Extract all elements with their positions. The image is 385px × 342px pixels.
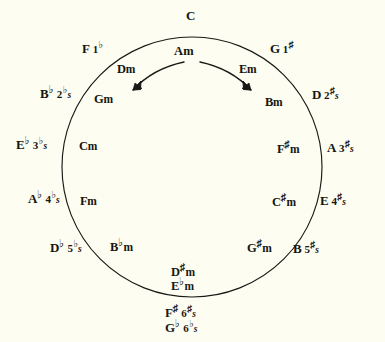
major-key-a-signature: 3♯s — [339, 142, 354, 154]
major-key-eb-accidental: ♭ — [24, 134, 29, 146]
major-key-f: F1♭ — [82, 42, 103, 56]
major-key-eb: E♭3♭s — [16, 138, 47, 152]
major-key-f-signature: 1♭ — [93, 43, 104, 55]
minor-key-dm-suffix: m — [126, 63, 136, 75]
major-key-c: C — [186, 9, 196, 22]
major-key-e-signature: 4♯s — [331, 195, 346, 207]
major-key-b: B5♯s — [293, 242, 319, 256]
minor-key-gsm-suffix: m — [262, 242, 272, 254]
minor-key-bm-suffix: m — [273, 96, 283, 108]
minor-key-fm-suffix: m — [87, 195, 97, 207]
minor-key-enharmonic-bottom: D♯m E♭m — [171, 265, 195, 294]
minor-key-gsm: G♯m — [247, 242, 272, 255]
minor-key-em-suffix: m — [247, 63, 257, 75]
major-key-gb: G♭6♭s — [165, 321, 198, 336]
minor-key-gm-suffix: m — [103, 93, 113, 105]
major-key-eb-signature: 3♭s — [33, 139, 48, 151]
major-key-enharmonic-bottom: F♯6♯s G♭6♭s — [165, 306, 198, 336]
minor-key-dsm-suffix: m — [185, 266, 195, 278]
major-key-bb-accidental: ♭ — [48, 83, 53, 95]
minor-key-ebm: E♭m — [171, 279, 195, 293]
major-key-a-root: A — [327, 140, 337, 155]
major-key-ab-plural: s — [56, 195, 60, 205]
major-key-gb-accidental: ♭ — [175, 317, 180, 329]
minor-key-csm-suffix: m — [286, 196, 296, 208]
minor-key-bm: Bm — [265, 96, 283, 109]
major-key-ab-accidental: ♭ — [37, 188, 42, 200]
major-key-e-root: E — [320, 193, 329, 208]
major-key-e: E4♯s — [320, 194, 346, 208]
sharp-icon: ♯ — [289, 39, 294, 50]
minor-key-cm-suffix: m — [88, 140, 98, 152]
major-key-g-root: G — [270, 41, 280, 56]
major-key-fs-root: F — [165, 305, 173, 320]
major-key-ab: A♭4♭s — [28, 192, 60, 206]
major-key-db-plural: s — [78, 244, 82, 254]
major-key-gb-signature: 6♭s — [183, 322, 198, 334]
minor-key-fm: Fm — [80, 195, 97, 208]
major-key-ab-signature: 4♭s — [45, 193, 60, 205]
major-key-b-plural: s — [315, 245, 319, 255]
major-key-d-plural: s — [335, 91, 339, 101]
major-key-bb-signature: 2♭s — [57, 88, 72, 100]
minor-key-am-label: Am — [174, 44, 194, 58]
major-key-b-root: B — [293, 241, 302, 256]
major-key-d-root: D — [312, 87, 322, 102]
minor-key-em: Em — [239, 63, 257, 76]
major-key-db-accidental: ♭ — [59, 237, 64, 249]
minor-key-gm: Gm — [94, 93, 113, 106]
minor-key-csm: C♯m — [272, 196, 296, 209]
minor-key-cm: Cm — [79, 140, 98, 153]
major-key-a-plural: s — [350, 144, 354, 154]
major-key-eb-plural: s — [43, 141, 47, 151]
major-key-g: G1♯ — [270, 42, 294, 56]
major-key-b-signature: 5♯s — [304, 243, 319, 255]
minor-key-ebm-suffix: m — [184, 280, 194, 292]
minor-key-csm-root: C — [272, 195, 281, 209]
major-key-fs-accidental: ♯ — [173, 302, 179, 314]
minor-key-am: Am — [174, 45, 194, 58]
minor-key-fsm: F♯m — [277, 143, 300, 156]
major-key-gb-plural: s — [194, 324, 198, 334]
major-key-gb-root: G — [165, 320, 175, 335]
major-key-bb-plural: s — [67, 90, 71, 100]
minor-key-dm: Dm — [117, 63, 136, 76]
minor-key-fsm-suffix: m — [290, 143, 300, 155]
major-key-a: A3♯s — [327, 141, 354, 155]
major-key-f-root: F — [82, 41, 90, 56]
flat-icon: ♭ — [98, 39, 103, 50]
major-key-e-plural: s — [342, 197, 346, 207]
minor-key-bbm-suffix: m — [123, 241, 133, 253]
circle-of-fifths-diagram: C Am F1♭ B♭2♭s E♭3♭s A♭4♭s D♭5♭s Dm Gm C… — [0, 0, 385, 342]
major-key-bb: B♭2♭s — [40, 87, 71, 101]
major-key-d-signature: 2♯s — [324, 89, 339, 101]
major-key-db: D♭5♭s — [50, 241, 82, 255]
minor-key-bbm: B♭m — [110, 241, 133, 254]
major-key-d: D2♯s — [312, 88, 339, 102]
major-key-db-signature: 5♭s — [67, 242, 82, 254]
major-key-c-root: C — [186, 8, 196, 23]
fifths-circle-outline — [62, 37, 322, 297]
flats-direction-arrow — [133, 62, 184, 90]
major-key-g-signature: 1♯ — [283, 43, 294, 55]
